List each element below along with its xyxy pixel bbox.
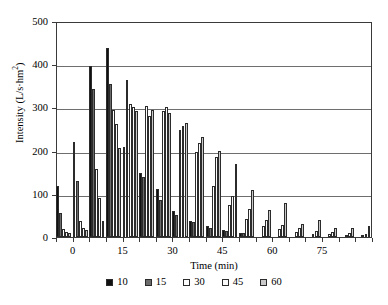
y-tick-label: 300 <box>32 103 48 113</box>
bar <box>218 151 221 237</box>
x-tick-mark <box>372 238 373 242</box>
legend-swatch-icon <box>222 279 229 286</box>
x-tick-mark <box>56 238 57 242</box>
x-tick-mark <box>106 238 107 242</box>
bar <box>68 233 71 237</box>
x-axis-title: Time (min) <box>56 260 372 271</box>
legend-label: 30 <box>194 277 205 287</box>
bar <box>201 137 204 237</box>
bar <box>351 228 354 237</box>
x-tick-mark <box>355 238 356 242</box>
bar <box>284 203 287 237</box>
y-tick-label: 500 <box>32 17 48 27</box>
x-tick-mark <box>139 238 140 242</box>
legend-label: 60 <box>271 277 282 287</box>
bar <box>102 221 105 237</box>
x-tick-mark <box>156 238 157 242</box>
x-tick-mark <box>206 238 207 242</box>
x-tick-mark <box>239 238 240 242</box>
x-tick-mark <box>172 238 173 242</box>
bar <box>268 210 271 237</box>
bar <box>168 113 171 237</box>
bar <box>318 220 321 237</box>
bar <box>235 164 238 237</box>
y-axis: Intensity (L/s·hm2) 0100200300400500 <box>0 0 56 260</box>
x-tick-mark <box>272 238 273 242</box>
legend-item[interactable]: 10 <box>106 277 128 287</box>
legend-item[interactable]: 60 <box>260 277 282 287</box>
x-axis: Time (min) 01530456075 <box>56 238 372 278</box>
x-tick-label: 75 <box>317 245 328 256</box>
plot-area <box>56 22 372 238</box>
x-tick-label: 45 <box>217 245 228 256</box>
legend-item[interactable]: 15 <box>145 277 167 287</box>
y-tick-label: 100 <box>32 190 48 200</box>
bar <box>185 123 188 237</box>
x-tick-mark <box>222 238 223 242</box>
x-tick-mark <box>123 238 124 242</box>
bar <box>334 228 337 238</box>
y-axis-title: Intensity (L/s·hm2) <box>11 33 25 173</box>
x-tick-mark <box>89 238 90 242</box>
x-tick-label: 30 <box>167 245 178 256</box>
x-tick-mark <box>339 238 340 242</box>
bar <box>85 230 88 237</box>
x-tick-mark <box>289 238 290 242</box>
legend-swatch-icon <box>106 279 113 286</box>
legend-label: 15 <box>156 277 167 287</box>
bar <box>151 110 154 237</box>
bars-layer <box>57 23 371 237</box>
bar <box>368 226 371 237</box>
chart-legend: 1015304560 <box>0 277 388 287</box>
chart-figure: Intensity (L/s·hm2) 0100200300400500 Tim… <box>0 0 388 305</box>
x-tick-mark <box>256 238 257 242</box>
x-tick-mark <box>189 238 190 242</box>
bar <box>301 224 304 237</box>
x-tick-label: 60 <box>267 245 278 256</box>
legend-item[interactable]: 30 <box>183 277 205 287</box>
legend-item[interactable]: 45 <box>222 277 244 287</box>
legend-label: 45 <box>233 277 244 287</box>
x-tick-label: 15 <box>117 245 128 256</box>
bar <box>135 111 138 237</box>
y-tick-label: 0 <box>43 233 48 243</box>
legend-swatch-icon <box>183 279 190 286</box>
x-tick-mark <box>73 238 74 242</box>
legend-swatch-icon <box>145 279 152 286</box>
y-tick-label: 200 <box>32 147 48 157</box>
bar <box>251 190 254 237</box>
y-tick-label: 400 <box>32 60 48 70</box>
x-tick-mark <box>322 238 323 242</box>
x-tick-label: 0 <box>70 245 75 256</box>
bar <box>118 148 121 237</box>
x-tick-mark <box>305 238 306 242</box>
legend-label: 10 <box>117 277 128 287</box>
legend-swatch-icon <box>260 279 267 286</box>
